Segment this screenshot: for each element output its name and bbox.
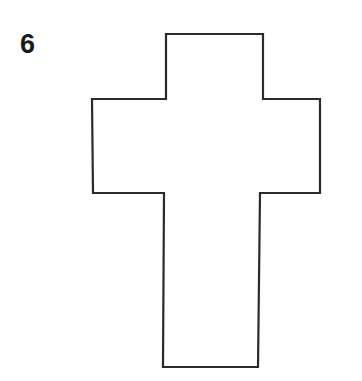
figure-page: 6 — [0, 0, 362, 381]
cross-figure — [0, 0, 362, 381]
cross-outline-shape — [92, 34, 320, 367]
